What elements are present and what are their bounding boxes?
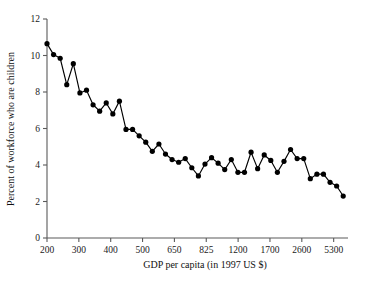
x-tick-label: 650 [167, 245, 182, 255]
line-chart: 024681012 200300400500650825120017002600… [0, 0, 372, 281]
data-point [176, 160, 181, 165]
data-point [71, 61, 76, 66]
data-point [242, 170, 247, 175]
data-point [156, 141, 161, 146]
data-point [314, 172, 319, 177]
data-point [150, 149, 155, 154]
data-point [216, 161, 221, 166]
x-tick-label: 500 [135, 245, 150, 255]
data-point [222, 167, 227, 172]
data-point [209, 155, 214, 160]
data-point [58, 56, 63, 61]
data-series [44, 41, 345, 199]
data-point [77, 90, 82, 95]
data-point [117, 99, 122, 104]
y-axis-title: Percent of workforce who are children [5, 52, 16, 206]
data-point [123, 127, 128, 132]
data-point [110, 111, 115, 116]
data-point [104, 100, 109, 105]
data-point [64, 82, 69, 87]
data-point [255, 166, 260, 171]
y-axis: 024681012 [31, 14, 48, 243]
x-axis-title: GDP per capita (in 1997 US $) [143, 259, 267, 271]
x-tick-label: 5300 [324, 245, 343, 255]
y-tick-label: 6 [35, 124, 40, 134]
data-point [334, 183, 339, 188]
x-tick-label: 2600 [292, 245, 311, 255]
data-point [235, 170, 240, 175]
data-point [262, 152, 267, 157]
data-point [281, 159, 286, 164]
data-point [84, 88, 89, 93]
x-tick-label: 400 [104, 245, 119, 255]
x-tick-label: 825 [199, 245, 214, 255]
y-tick-label: 4 [35, 160, 40, 170]
data-point [341, 193, 346, 198]
x-tick-label: 1200 [229, 245, 248, 255]
data-point [189, 165, 194, 170]
data-point [308, 176, 313, 181]
x-tick-label: 300 [72, 245, 87, 255]
data-point [275, 170, 280, 175]
data-point [202, 161, 207, 166]
x-tick-label: 200 [40, 245, 55, 255]
y-tick-label: 2 [35, 197, 40, 207]
data-point [229, 157, 234, 162]
data-point [288, 147, 293, 152]
data-point [130, 127, 135, 132]
data-point [248, 150, 253, 155]
data-point [295, 156, 300, 161]
data-point [169, 157, 174, 162]
data-point [44, 41, 49, 46]
data-point [51, 52, 56, 57]
data-point [268, 158, 273, 163]
data-point [137, 133, 142, 138]
y-tick-label: 10 [31, 51, 41, 61]
data-point [90, 102, 95, 107]
y-tick-label: 0 [35, 233, 40, 243]
y-tick-label: 8 [35, 87, 40, 97]
x-axis: 2003004005006508251200170026005300 [40, 238, 348, 255]
x-tick-label: 1700 [260, 245, 279, 255]
data-point [183, 156, 188, 161]
data-point [196, 173, 201, 178]
data-point [97, 109, 102, 114]
data-point [143, 140, 148, 145]
data-point [327, 180, 332, 185]
data-point [163, 151, 168, 156]
data-point [301, 156, 306, 161]
data-point [321, 172, 326, 177]
chart-container: 024681012 200300400500650825120017002600… [0, 0, 372, 281]
y-tick-label: 12 [31, 14, 41, 24]
